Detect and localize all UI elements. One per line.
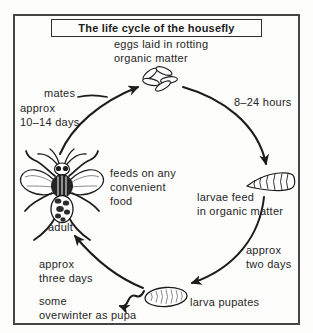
lifecycle-diagram: The life cycle of the housefly	[0, 0, 313, 333]
diagram-title: The life cycle of the housefly	[78, 22, 234, 34]
adult-to-egg-duration-line1: approx	[20, 101, 55, 115]
larva-illustration	[247, 173, 295, 191]
pupa-illustration	[144, 286, 187, 308]
eggs-illustration	[141, 65, 178, 93]
adult-stage-label: adult	[48, 220, 73, 234]
adult-feeding-note: feeds on any convenient food	[110, 166, 176, 208]
diagram-title-box: The life cycle of the housefly	[51, 19, 262, 37]
mates-label: mates	[44, 86, 75, 100]
larva-stage-label: larvae feed in organic matter	[197, 190, 283, 218]
pupa-to-adult-duration-label: approx three days	[39, 257, 93, 285]
egg-to-larva-duration-label: 8–24 hours	[234, 95, 292, 109]
adult-to-egg-duration-line2: 10–14 days	[20, 115, 79, 129]
larva-to-pupa-duration-label: approx two days	[246, 243, 291, 271]
overwinter-note-label: some overwinter as pupa	[39, 294, 136, 322]
egg-stage-label: eggs laid in rotting organic matter	[114, 37, 208, 65]
pupa-stage-label: larva pupates	[190, 295, 259, 309]
